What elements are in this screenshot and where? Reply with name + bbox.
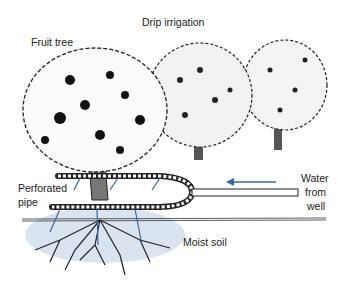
water-flow-arrow-icon <box>226 178 276 186</box>
moist-soil-area <box>25 207 185 263</box>
moist-soil-label: Moist soil <box>183 236 227 249</box>
tree-right <box>243 40 327 150</box>
water-label-line1: Water <box>301 172 329 185</box>
fruit-tree-label: Fruit tree <box>31 36 73 49</box>
perforated-pipe <box>52 176 192 207</box>
water-label-line2: from <box>305 186 326 199</box>
perforated-pipe-label-line2: pipe <box>18 196 38 209</box>
water-label-line3: well <box>307 200 325 213</box>
supply-pipe <box>192 189 298 196</box>
perforated-pipe-label-line1: Perforated <box>18 182 67 195</box>
diagram-title: Drip irrigation <box>142 16 204 29</box>
